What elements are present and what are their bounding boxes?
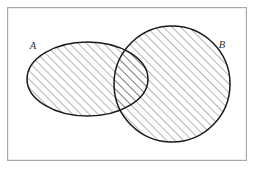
venn-diagram-canvas: A B — [0, 0, 255, 169]
set-b-label: B — [219, 39, 226, 50]
venn-diagram-figure: A B — [0, 0, 255, 169]
set-a-label: A — [29, 40, 37, 51]
